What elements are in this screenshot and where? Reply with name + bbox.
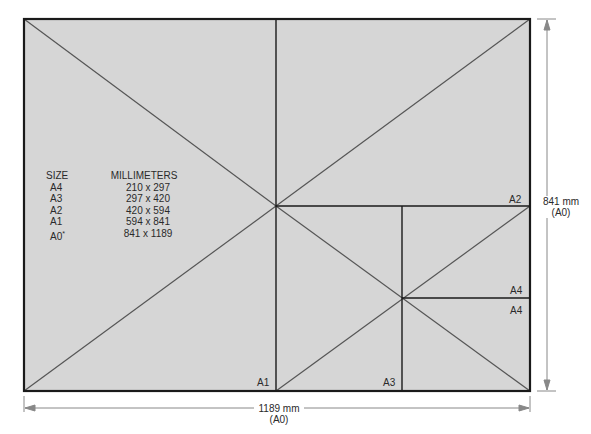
table-row: A1 594 x 841 <box>46 216 188 228</box>
width-sub: (A0) <box>254 414 304 425</box>
label-a4-lower: A4 <box>510 305 522 316</box>
mm-cell: 210 x 297 <box>108 182 188 194</box>
label-a4-upper: A4 <box>510 285 522 296</box>
table-row: A2 420 x 594 <box>46 205 188 217</box>
label-a3: A3 <box>383 377 395 388</box>
table-row: A0* 841 x 1189 <box>46 228 188 243</box>
label-a2: A2 <box>509 194 521 205</box>
size-cell: A4 <box>46 182 108 194</box>
size-table: SIZE MILLIMETERS A4 210 x 297 A3 297 x 4… <box>46 170 188 242</box>
table-row: A4 210 x 297 <box>46 182 188 194</box>
table-row: A3 297 x 420 <box>46 193 188 205</box>
millimeters-header: MILLIMETERS <box>104 170 184 182</box>
size-cell: A3 <box>46 193 108 205</box>
width-label: 1189 mm (A0) <box>254 403 304 425</box>
size-cell: A1 <box>46 216 108 228</box>
asterisk: * <box>62 230 65 237</box>
label-a1: A1 <box>257 377 269 388</box>
size-cell: A2 <box>46 205 108 217</box>
height-label: 841 mm (A0) <box>532 196 590 218</box>
mm-cell: 594 x 841 <box>108 216 188 228</box>
height-value: 841 mm <box>532 196 590 207</box>
size-value: A0 <box>50 231 62 242</box>
mm-cell: 297 x 420 <box>108 193 188 205</box>
width-value: 1189 mm <box>254 403 304 414</box>
size-header: SIZE <box>46 170 104 182</box>
size-cell: A0* <box>46 228 108 243</box>
mm-cell: 420 x 594 <box>108 205 188 217</box>
mm-cell: 841 x 1189 <box>108 228 188 243</box>
height-sub: (A0) <box>532 207 590 218</box>
